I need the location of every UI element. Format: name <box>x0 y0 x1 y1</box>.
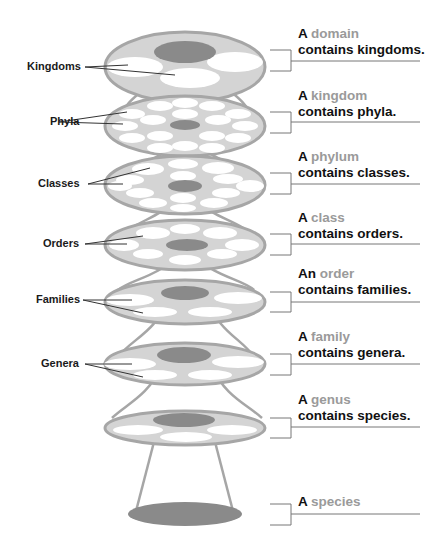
article: A <box>298 88 307 103</box>
desc-rest: contains species. <box>298 408 411 423</box>
label-orders: Orders <box>43 237 79 249</box>
desc-rest: contains orders. <box>298 226 403 241</box>
desc-species: A species <box>298 494 361 510</box>
desc-rest: contains classes. <box>298 165 410 180</box>
disc-genus <box>105 411 265 445</box>
disc-kingdom <box>105 96 265 156</box>
disc-phylum <box>105 156 265 214</box>
article: An <box>298 266 316 281</box>
desc-domain: A domain contains kingdoms. <box>298 26 425 58</box>
desc-rest: contains genera. <box>298 345 405 360</box>
desc-class: A class contains orders. <box>298 210 403 242</box>
disc-class <box>105 220 265 270</box>
label-phyla: Phyla <box>50 115 79 127</box>
term-genus: genus <box>311 392 351 407</box>
desc-order: An order contains families. <box>298 266 411 298</box>
label-kingdoms: Kingdoms <box>27 60 81 72</box>
desc-genus: A genus contains species. <box>298 392 411 424</box>
disc-species <box>128 502 242 526</box>
desc-phylum: A phylum contains classes. <box>298 149 410 181</box>
article: A <box>298 329 307 344</box>
desc-rest: contains families. <box>298 282 411 297</box>
disc-order <box>105 280 265 324</box>
term-family: family <box>311 329 350 344</box>
article: A <box>298 210 307 225</box>
desc-kingdom: A kingdom contains phyla. <box>298 88 396 120</box>
term-domain: domain <box>311 26 359 41</box>
article: A <box>298 494 307 509</box>
disc-domain <box>105 32 265 102</box>
term-order: order <box>320 266 355 281</box>
article: A <box>298 26 307 41</box>
term-kingdom: kingdom <box>311 88 367 103</box>
term-species: species <box>311 494 361 509</box>
label-genera: Genera <box>41 357 79 369</box>
term-phylum: phylum <box>311 149 359 164</box>
term-class: class <box>311 210 345 225</box>
label-families: Families <box>36 293 80 305</box>
desc-rest: contains kingdoms. <box>298 42 425 57</box>
desc-rest: contains phyla. <box>298 104 396 119</box>
desc-family: A family contains genera. <box>298 329 405 361</box>
article: A <box>298 149 307 164</box>
label-classes: Classes <box>38 177 80 189</box>
article: A <box>298 392 307 407</box>
